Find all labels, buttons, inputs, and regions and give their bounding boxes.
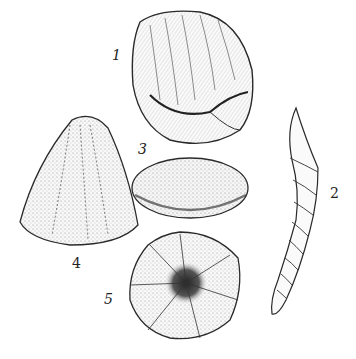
figure-2-spiral-shell [272, 108, 318, 314]
figure-5-urchin-underside [130, 232, 240, 339]
figure-label-1: 1 [112, 48, 121, 62]
figure-label-5: 5 [104, 292, 113, 306]
engraving-drawing [0, 0, 356, 359]
figure-1-shell [132, 11, 252, 143]
figure-label-4: 4 [72, 256, 81, 270]
figure-3-oval-urchin [132, 158, 248, 218]
figure-4-conical-urchin [20, 116, 138, 245]
fossil-illustration-plate: 1 2 3 4 5 [0, 0, 356, 359]
figure-label-2: 2 [330, 186, 339, 200]
figure-label-3: 3 [138, 142, 147, 156]
